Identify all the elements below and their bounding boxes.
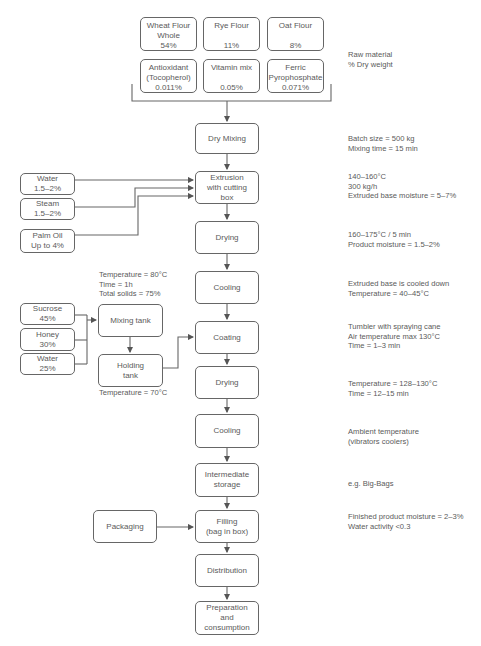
note-line: (vibrators coolers) — [348, 437, 419, 447]
note-line: e.g. Big-Bags — [348, 479, 394, 489]
note-drying-1: 160–175°C / 5 min Product moisture = 1.5… — [348, 230, 440, 249]
label: Preparation — [206, 603, 247, 613]
label: Rye Flour — [214, 21, 249, 31]
label: Distribution — [207, 566, 247, 576]
percent: 25% — [39, 364, 55, 374]
percent: 0.071% — [282, 83, 309, 93]
label: storage — [214, 480, 241, 490]
raw-material-wheat-flour: Wheat Flour Whole 54% — [140, 17, 197, 51]
note-line: Raw material — [348, 50, 393, 60]
percent: 1.5–2% — [34, 209, 61, 219]
label: Packaging — [106, 522, 143, 532]
step-extrusion: Extrusion with cutting box — [195, 171, 259, 204]
label: with cutting — [207, 183, 247, 193]
note-line: Temperature = 80°C — [99, 270, 167, 280]
label: Water — [37, 174, 58, 184]
raw-material-ferric-pyrophosphate: Ferric Pyrophosphate 0.071% — [267, 59, 324, 93]
label: Pyrophosphate — [269, 73, 323, 83]
label: tank — [123, 371, 138, 381]
step-coating: Coating — [195, 321, 259, 354]
label: Oat Flour — [279, 21, 312, 31]
label: Sucrose — [33, 304, 62, 314]
note-filling: Finished product moisture = 2–3% Water a… — [348, 512, 463, 531]
holding-tank: Holding tank — [98, 354, 163, 387]
label: Palm Oil — [32, 231, 62, 241]
note-line: Extruded base is cooled down — [348, 279, 449, 289]
note-line: Batch size = 500 kg — [348, 134, 418, 144]
note-line: Time = 1h — [99, 280, 167, 290]
note-dry-mixing: Batch size = 500 kg Mixing time = 15 min — [348, 134, 418, 153]
raw-material-antioxidant: Antioxidant (Tocopherol) 0.011% — [140, 59, 197, 93]
label: Extrusion — [210, 173, 243, 183]
note-line: Tumbler with spraying cane — [348, 322, 441, 332]
raw-material-rye-flour: Rye Flour 11% — [203, 17, 260, 51]
label: Drying — [215, 378, 238, 388]
note-line: Mixing time = 15 min — [348, 144, 418, 154]
percent: 11% — [224, 41, 239, 51]
label — [230, 31, 232, 41]
note-line: Time = 12–15 min — [348, 389, 437, 399]
note-line: Temperature = 128–130°C — [348, 379, 437, 389]
raw-material-oat-flour: Oat Flour 8% — [267, 17, 324, 51]
label: Steam — [36, 199, 59, 209]
label: Vitamin mix — [211, 63, 252, 73]
label: consumption — [204, 623, 249, 633]
label: box — [221, 193, 234, 203]
note-line: 300 kg/h — [348, 182, 456, 192]
label: Honey — [36, 330, 59, 340]
label: Ferric — [285, 63, 305, 73]
step-intermediate-storage: Intermediate storage — [195, 463, 259, 497]
input-steam: Steam 1.5–2% — [20, 198, 75, 220]
label: Antioxidant — [149, 63, 189, 73]
label: Cooling — [213, 426, 240, 436]
note-line: Total solids = 75% — [99, 289, 167, 299]
note-cooling-1: Extruded base is cooled down Temperature… — [348, 279, 449, 298]
step-dry-mixing: Dry Mixing — [195, 123, 259, 154]
note-line: Extruded base moisture = 5–7% — [348, 191, 456, 201]
step-drying-1: Drying — [195, 221, 259, 254]
step-cooling-2: Cooling — [195, 414, 259, 448]
step-distribution: Distribution — [195, 554, 259, 587]
percent: 0.05% — [220, 83, 243, 93]
label: Wheat Flour — [147, 21, 191, 31]
percent: 1.5–2% — [34, 184, 61, 194]
percent: 30% — [39, 340, 55, 350]
mixing-tank: Mixing tank — [98, 304, 163, 337]
label: Intermediate — [205, 470, 249, 480]
label — [230, 73, 232, 83]
percent: 54% — [160, 41, 176, 51]
note-line: Time = 1–3 min — [348, 341, 441, 351]
note-line: Product moisture = 1.5–2% — [348, 240, 440, 250]
label — [294, 31, 296, 41]
note-mixing-tank: Temperature = 80°C Time = 1h Total solid… — [99, 270, 167, 299]
note-extrusion: 140–160°C 300 kg/h Extruded base moistur… — [348, 172, 456, 201]
raw-material-vitamin-mix: Vitamin mix 0.05% — [203, 59, 260, 93]
packaging: Packaging — [93, 510, 157, 543]
step-drying-2: Drying — [195, 366, 259, 399]
note-intermediate-storage: e.g. Big-Bags — [348, 479, 394, 489]
label: Holding — [117, 361, 144, 371]
input-sucrose: Sucrose 45% — [20, 303, 75, 325]
note-line: % Dry weight — [348, 60, 393, 70]
label: and — [220, 613, 233, 623]
note-coating: Tumbler with spraying cane Air temperatu… — [348, 322, 441, 351]
note-line: Air temperature max 130°C — [348, 332, 441, 342]
note-line: Finished product moisture = 2–3% — [348, 512, 463, 522]
note-drying-2: Temperature = 128–130°C Time = 12–15 min — [348, 379, 437, 398]
label: Cooling — [213, 283, 240, 293]
label: Mixing tank — [110, 316, 150, 326]
percent: 8% — [290, 41, 302, 51]
step-filling: Filling (bag in box) — [195, 510, 259, 543]
label: Whole — [157, 31, 180, 41]
input-water-extrusion: Water 1.5–2% — [20, 173, 75, 195]
percent: 0.011% — [155, 83, 182, 93]
label: Coating — [213, 333, 241, 343]
label: Dry Mixing — [208, 134, 246, 144]
note-cooling-2: Ambient temperature (vibrators coolers) — [348, 427, 419, 446]
label: (bag in box) — [206, 527, 248, 537]
label: (Tocopherol) — [146, 73, 190, 83]
note-line: Ambient temperature — [348, 427, 419, 437]
step-preparation-consumption: Preparation and consumption — [195, 601, 259, 635]
note-line: Water activity <0.3 — [348, 522, 463, 532]
label: Filling — [217, 517, 238, 527]
